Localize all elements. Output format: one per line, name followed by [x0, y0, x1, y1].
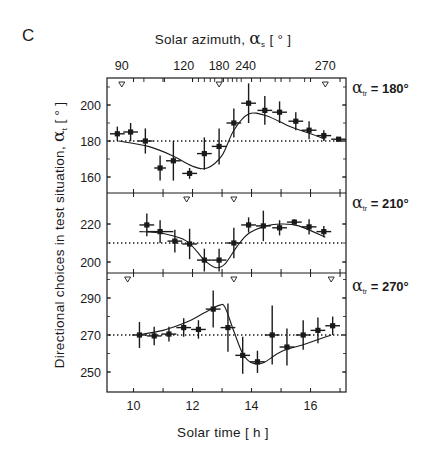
top-axis-tick-label: 90 — [115, 59, 129, 73]
triangle-marker-icon — [231, 277, 237, 282]
model-curve — [139, 224, 325, 268]
data-point — [171, 158, 176, 163]
data-point — [225, 325, 230, 330]
triangle-marker-icon — [119, 82, 125, 87]
top-axis-tick-label: 180 — [209, 59, 230, 73]
data-point — [172, 239, 177, 244]
data-point — [202, 151, 207, 156]
triangle-marker-icon — [328, 277, 334, 282]
data-point — [202, 258, 207, 263]
data-point — [293, 119, 298, 124]
data-point — [246, 101, 251, 106]
x-tick-label: 16 — [304, 399, 318, 413]
y-tick-label: 200 — [80, 256, 101, 270]
y-tick-label: 250 — [80, 366, 101, 380]
y-tick-label: 160 — [80, 171, 101, 185]
data-point — [143, 138, 148, 143]
data-point — [187, 171, 192, 176]
data-point — [166, 331, 171, 336]
data-point — [330, 323, 335, 328]
data-point — [261, 223, 266, 228]
data-point — [292, 220, 297, 225]
data-point — [277, 225, 282, 230]
top-axis-tick-label: 270 — [315, 59, 336, 73]
data-point — [231, 240, 236, 245]
data-point — [321, 133, 326, 138]
data-point — [181, 325, 186, 330]
data-point — [301, 332, 306, 337]
x-tick-label: 10 — [127, 399, 141, 413]
data-point — [336, 137, 341, 142]
data-point — [231, 120, 236, 125]
y-tick-label: 290 — [80, 292, 101, 306]
top-axis-tick-label: 240 — [235, 59, 256, 73]
data-point — [321, 229, 326, 234]
data-point — [306, 224, 311, 229]
y-tick-label: 270 — [80, 329, 101, 343]
data-point — [315, 328, 320, 333]
data-point — [262, 108, 267, 113]
data-point — [217, 144, 222, 149]
data-point — [152, 333, 157, 338]
y-tick-label: 180 — [80, 135, 101, 149]
data-point — [240, 353, 245, 358]
data-point — [187, 241, 192, 246]
data-point — [211, 307, 216, 312]
chart-canvas: 1012141690120180240270160180200200220250… — [0, 0, 446, 456]
data-point — [306, 128, 311, 133]
triangle-marker-icon — [125, 277, 131, 282]
plot-frame — [107, 78, 346, 392]
y-tick-label: 220 — [80, 218, 101, 232]
triangle-marker-icon — [322, 82, 328, 87]
data-point — [115, 131, 120, 136]
data-point — [158, 229, 163, 234]
data-point — [270, 332, 275, 337]
y-tick-label: 200 — [80, 99, 101, 113]
data-point — [137, 332, 142, 337]
triangle-marker-icon — [184, 197, 190, 202]
data-point — [255, 359, 260, 364]
data-point — [144, 222, 149, 227]
data-point — [284, 344, 289, 349]
data-point — [277, 110, 282, 115]
data-point — [217, 258, 222, 263]
data-point — [128, 129, 133, 134]
triangle-marker-icon — [216, 82, 222, 87]
data-point — [246, 222, 251, 227]
x-tick-label: 12 — [186, 399, 200, 413]
top-axis-tick-label: 120 — [173, 59, 194, 73]
x-tick-label: 14 — [245, 399, 259, 413]
data-point — [158, 165, 163, 170]
triangle-marker-icon — [231, 197, 237, 202]
data-point — [196, 327, 201, 332]
